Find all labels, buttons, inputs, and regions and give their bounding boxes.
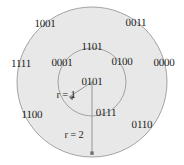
codeword-0011: 0011 bbox=[126, 18, 147, 29]
codeword-0110: 0110 bbox=[132, 120, 153, 131]
code-sphere-diagram: 0101 1101 0001 0100 0111 1001 0011 1111 … bbox=[0, 0, 184, 165]
codeword-0001: 0001 bbox=[51, 58, 72, 69]
codeword-1101: 1101 bbox=[82, 42, 103, 53]
outer-radius-endpoint-marker bbox=[90, 151, 93, 154]
codeword-1111: 1111 bbox=[11, 59, 31, 70]
codeword-0111: 0111 bbox=[96, 108, 116, 119]
codeword-0100: 0100 bbox=[111, 57, 132, 68]
codeword-1100: 1100 bbox=[22, 110, 43, 121]
codeword-1001: 1001 bbox=[34, 19, 55, 30]
radius-label-outer: r = 2 bbox=[65, 130, 84, 141]
codeword-0000: 0000 bbox=[153, 58, 174, 69]
radius-label-inner: r = 1 bbox=[57, 90, 76, 101]
codeword-0101: 0101 bbox=[81, 77, 102, 88]
